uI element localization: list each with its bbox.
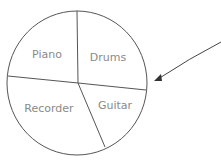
slice-label-guitar: Guitar xyxy=(98,99,133,112)
slice-label-recorder: Recorder xyxy=(24,102,74,115)
slice-divider-right xyxy=(78,83,146,90)
slice-label-piano: Piano xyxy=(32,48,62,61)
slice-divider-bottom xyxy=(78,83,105,147)
slice-divider-top xyxy=(77,11,78,83)
slice-divider-left xyxy=(8,76,78,83)
pie-chart: Piano Drums Recorder Guitar xyxy=(0,0,221,164)
slice-label-drums: Drums xyxy=(90,51,127,64)
pointer-arrow-line xyxy=(158,42,221,79)
arrowhead-icon xyxy=(154,74,162,81)
